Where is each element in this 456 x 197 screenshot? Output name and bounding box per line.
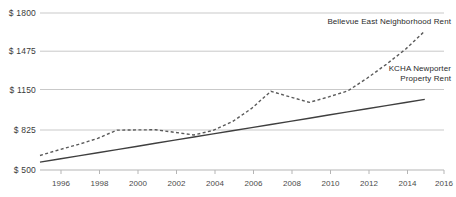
x-tick-label-1996: 1996 xyxy=(52,179,71,188)
x-axis-tick-labels: 1996 1998 2000 2002 2004 2006 2008 2010 … xyxy=(52,179,454,188)
y-tick-label-1475: $ 1475 xyxy=(9,46,36,56)
series-line-bellevue-east xyxy=(40,31,425,155)
series-label-bellevue-east: Bellevue East Neighborhood Rent xyxy=(327,17,451,26)
series-label-kcha-newporter-line1: KCHA Newporter xyxy=(389,64,452,73)
x-tick-label-2008: 2008 xyxy=(283,179,302,188)
x-tick-label-2014: 2014 xyxy=(398,179,417,188)
y-tick-label-1800: $ 1800 xyxy=(9,8,36,18)
y-axis-tick-labels: $ 1800 $ 1475 $ 1150 $ 825 $ 500 xyxy=(9,8,36,175)
y-tick-label-500: $ 500 xyxy=(14,165,36,175)
series-line-kcha-newporter xyxy=(40,99,425,162)
x-tick-label-2010: 2010 xyxy=(321,179,340,188)
y-tick-label-825: $ 825 xyxy=(14,125,36,135)
x-tick-label-2012: 2012 xyxy=(360,179,379,188)
chart-canvas: $ 1800 $ 1475 $ 1150 $ 825 $ 500 1996 19… xyxy=(0,0,456,197)
x-tick-label-2004: 2004 xyxy=(206,179,225,188)
x-tick-label-2016: 2016 xyxy=(435,179,454,188)
rent-comparison-chart: $ 1800 $ 1475 $ 1150 $ 825 $ 500 1996 19… xyxy=(0,0,456,197)
gridlines-group xyxy=(40,13,444,130)
x-tick-label-2000: 2000 xyxy=(129,179,148,188)
x-tick-label-2002: 2002 xyxy=(167,179,186,188)
x-tick-label-2006: 2006 xyxy=(244,179,263,188)
x-axis-line-group xyxy=(40,170,444,174)
y-tick-label-1150: $ 1150 xyxy=(9,85,36,95)
x-tick-label-1998: 1998 xyxy=(90,179,109,188)
series-label-kcha-newporter-line2: Property Rent xyxy=(400,74,451,83)
